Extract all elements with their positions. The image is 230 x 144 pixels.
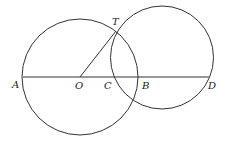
label-o: O [75, 80, 83, 91]
geometry-diagram: A O C B D T [0, 0, 230, 144]
circle-through-c-d [111, 6, 214, 109]
label-d: D [207, 80, 216, 91]
label-t: T [112, 16, 120, 27]
label-c: C [104, 80, 112, 91]
label-b: B [141, 80, 149, 91]
label-a: A [11, 79, 19, 90]
